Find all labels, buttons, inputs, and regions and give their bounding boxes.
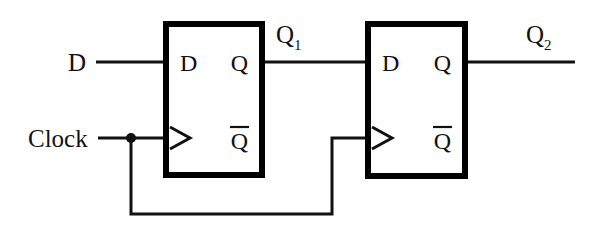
net-q1-subscript: 1 (294, 37, 302, 53)
flip-flop-2-d-pin-label: D (382, 50, 399, 76)
input-clock-label: Clock (28, 125, 88, 152)
circuit-diagram-canvas: D Q Q D Q Q D Clock Q 1 Q 2 (0, 0, 601, 227)
net-q2-subscript: 2 (544, 37, 552, 53)
net-q1-label: Q (276, 21, 294, 48)
flip-flop-1-d-pin-label: D (180, 50, 197, 76)
flip-flop-2-qbar-pin-label: Q (434, 128, 451, 154)
flip-flop-2-q-pin-label: Q (434, 50, 451, 76)
flip-flop-1-qbar-pin-label: Q (231, 128, 248, 154)
dff-shift-register-schematic: D Q Q D Q Q D Clock Q 1 Q 2 (0, 0, 601, 227)
input-d-label: D (68, 49, 86, 76)
flip-flop-1-q-pin-label: Q (231, 50, 248, 76)
net-q2-label: Q (526, 21, 544, 48)
